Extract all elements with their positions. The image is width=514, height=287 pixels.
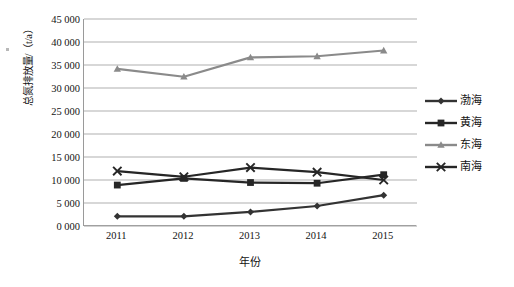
y-tick-label: 10 000 [22,175,80,186]
x-tick-label: 2014 [286,230,346,242]
square-marker-icon [438,119,445,126]
legend-label: 东海 [458,138,482,151]
legend-item-2[interactable]: 黄海 [424,113,512,132]
legend-item-4[interactable]: 南海 [424,157,512,176]
legend-label: 南海 [458,160,482,173]
y-tick-label: 30 000 [22,83,80,94]
y-tick-label: 0 000 [22,221,80,232]
legend-label: 黄海 [458,116,482,129]
chart-legend: 渤海黄海东海南海 [424,91,512,179]
y-tick-label: 20 000 [22,129,80,140]
x-axis-title: 年份 [83,253,416,269]
series-layer [113,47,388,220]
plot-area [83,19,416,226]
x-axis-tick-labels: 20112012201320142015 [83,230,416,246]
x-tick-label: 2015 [353,230,413,242]
series-2 [114,47,388,80]
diamond-marker-icon [438,97,445,104]
y-tick-label: 35 000 [22,60,80,71]
diamond-marker-icon [180,213,187,220]
y-tick-label: 15 000 [22,152,80,163]
y-tick-label: 25 000 [22,106,80,117]
plot-svg [84,19,417,226]
square-marker-icon [247,179,254,186]
legend-item-1[interactable]: 渤海 [424,91,512,110]
nitrogen-emission-line-chart: 总氮排放量/（t/a） 45 00040 00035 00030 00025 0… [0,0,514,287]
legend-item-3[interactable]: 东海 [424,135,512,154]
x-tick-label: 2011 [86,230,146,242]
gridlines [84,19,417,226]
y-tick-label: 45 000 [22,14,80,25]
y-tick-label: 40 000 [22,37,80,48]
diamond-marker-icon [247,208,254,215]
diamond-marker-icon [380,192,387,199]
series-line [117,168,383,180]
legend-label: 渤海 [458,94,482,107]
square-marker-icon [114,182,121,189]
y-axis-tick-labels: 45 00040 00035 00030 00025 00020 00015 0… [22,0,80,287]
diamond-marker-icon [424,94,458,108]
square-marker-icon [314,180,321,187]
square-marker-icon [424,116,458,130]
cross-marker-icon [424,160,458,174]
x-tick-label: 2012 [153,230,213,242]
scan-artifact-speck [6,48,9,51]
y-tick-label: 5 000 [22,198,80,209]
series-0 [114,192,387,220]
triangle-marker-icon [424,138,458,152]
x-tick-label: 2013 [220,230,280,242]
diamond-marker-icon [314,202,321,209]
diamond-marker-icon [114,213,121,220]
